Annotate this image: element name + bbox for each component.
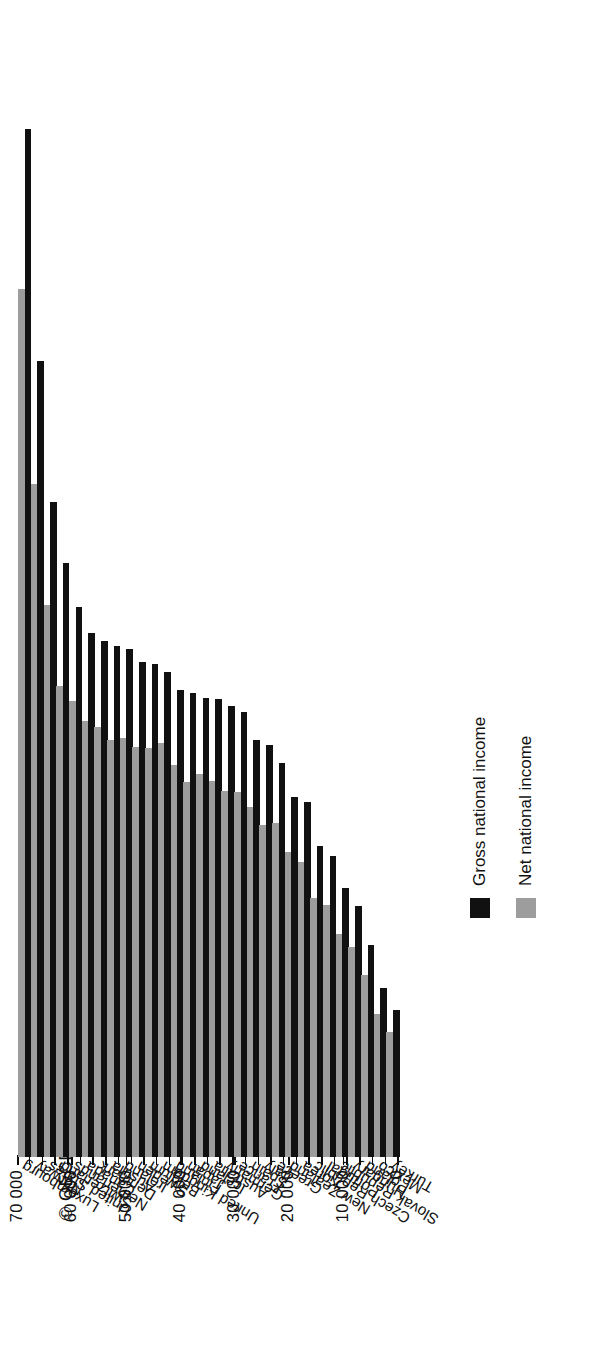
bar-group [385,17,398,1157]
bar-group [182,17,195,1157]
bar-group [93,17,106,1157]
bar-group [322,17,335,1157]
bar-net-national-income [209,781,216,1157]
bar-group [131,17,144,1157]
bar-net-national-income [234,792,241,1157]
bar-group [284,17,297,1157]
bar-net-national-income [82,721,89,1157]
bar-group [119,17,132,1157]
bar-net-national-income [196,774,203,1157]
bar-group [258,17,271,1157]
bar-group [246,17,259,1157]
bar-group [81,17,94,1157]
rotated-figure-wrapper: © OECD 2008 010 00020 00030 00040 00050 … [0,0,606,1370]
bar-group [55,17,68,1157]
bar-group-container [17,17,398,1157]
bar-net-national-income [348,947,355,1157]
legend-label: Gross national income [470,717,490,886]
bar-net-national-income [259,825,266,1157]
bar-net-national-income [56,686,63,1157]
value-tick [17,1157,19,1165]
bar-net-national-income [120,738,127,1157]
bar-chart: © OECD 2008 010 00020 00030 00040 00050 … [0,0,606,1370]
bar-net-national-income [31,484,38,1157]
bar-net-national-income [221,791,228,1157]
bar-group [17,17,30,1157]
chart-legend: Gross national incomeNet national income [470,717,536,918]
legend-item: Gross national income [470,717,490,918]
bar-gross-national-income [393,1010,400,1157]
bar-net-national-income [171,765,178,1157]
bar-group [271,17,284,1157]
legend-item: Net national income [516,717,536,918]
bar-net-national-income [374,1014,381,1157]
legend-label: Net national income [516,736,536,886]
bar-net-national-income [323,905,330,1157]
bar-net-national-income [285,852,292,1157]
bar-group [233,17,246,1157]
bar-net-national-income [361,975,368,1157]
bar-group [208,17,221,1157]
bar-net-national-income [69,701,76,1157]
bar-group [309,17,322,1157]
bar-net-national-income [272,823,279,1157]
bar-net-national-income [386,1032,393,1157]
bar-group [30,17,43,1157]
bar-group [42,17,55,1157]
bar-net-national-income [18,289,25,1157]
bar-net-national-income [310,898,317,1157]
bar-net-national-income [145,748,152,1157]
bar-group [144,17,157,1157]
bar-group [169,17,182,1157]
bar-group [220,17,233,1157]
bar-group [296,17,309,1157]
bar-group [157,17,170,1157]
bar-group [195,17,208,1157]
bar-group [106,17,119,1157]
bar-net-national-income [298,862,305,1157]
bar-net-national-income [107,740,114,1157]
bar-net-national-income [158,743,165,1157]
value-tick-label: 70 000 [7,1170,26,1256]
bar-net-national-income [44,605,51,1157]
legend-swatch-nni [516,898,536,918]
bar-net-national-income [336,934,343,1157]
bar-group [360,17,373,1157]
bar-net-national-income [132,747,139,1157]
bar-group [347,17,360,1157]
bar-net-national-income [94,727,101,1157]
bar-group [335,17,348,1157]
bar-net-national-income [247,807,254,1157]
bar-group [373,17,386,1157]
bar-group [68,17,81,1157]
legend-swatch-gni [470,898,490,918]
bar-net-national-income [183,782,190,1157]
